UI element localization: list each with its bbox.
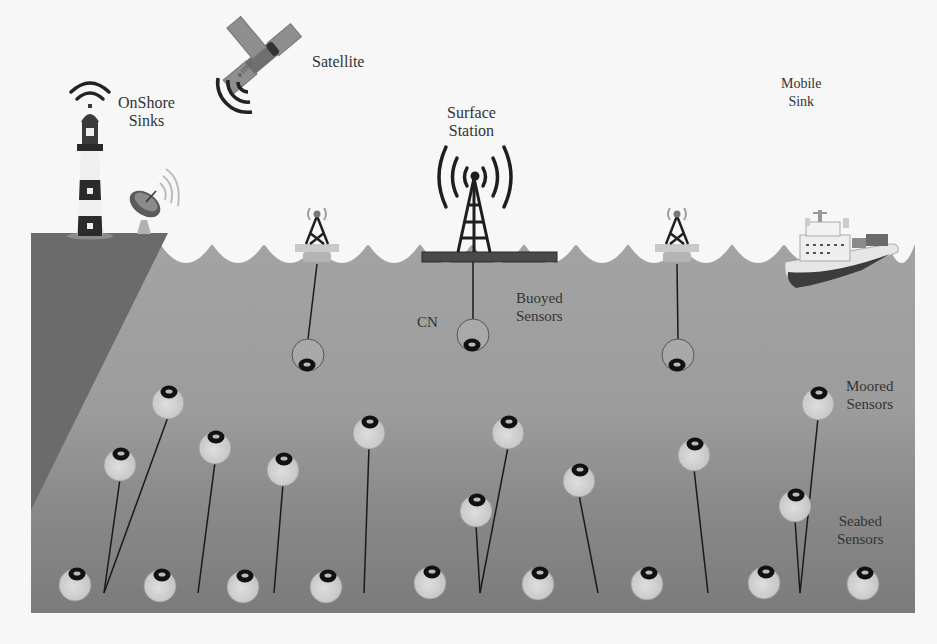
- lighthouse-icon: [67, 83, 113, 240]
- satellite-icon: [218, 16, 302, 112]
- seabed-sensors-label: Seabed Sensors: [837, 512, 884, 548]
- buoyed-sensor: [292, 339, 324, 372]
- cn-label: CN: [417, 313, 438, 331]
- satellite-label: Satellite: [312, 53, 364, 71]
- wifi-signal-icon: [71, 83, 109, 99]
- buoyed-sensor: [457, 319, 489, 352]
- buoyed-sensor: [662, 339, 694, 372]
- surface-station-label: Surface Station: [447, 104, 496, 140]
- buoyed-sensors-label: Buoyed Sensors: [516, 289, 563, 325]
- satellite-dish-icon: [125, 169, 179, 234]
- onshore-sinks-label: OnShore Sinks: [118, 94, 175, 130]
- moored-sensors-label: Moored Sensors: [846, 377, 894, 413]
- mobile-sink-label: Mobile Sink: [781, 75, 821, 111]
